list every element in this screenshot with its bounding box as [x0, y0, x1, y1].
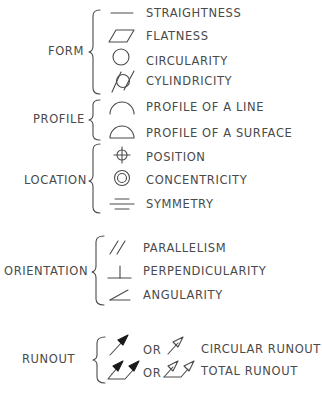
- brace-orientation: [92, 236, 104, 305]
- label-profile-of-a-line: PROFILE OF A LINE: [146, 102, 264, 114]
- category-form: FORM: [48, 46, 84, 58]
- category-location: LOCATION: [24, 175, 87, 187]
- circularity-icon: [113, 49, 129, 65]
- label-symmetry: SYMMETRY: [146, 199, 214, 211]
- profile-line-icon: [110, 102, 134, 114]
- circular-runout-open-icon: [168, 337, 183, 354]
- parallelism-icon: [110, 241, 125, 254]
- total-runout-filled-icon: [108, 361, 139, 379]
- label-concentricity: CONCENTRICITY: [146, 175, 247, 187]
- flatness-icon: [109, 30, 134, 42]
- label-perpendicularity: PERPENDICULARITY: [143, 266, 266, 278]
- perpendicularity-icon: [108, 266, 131, 278]
- label-total-runout: TOTAL RUNOUT: [201, 366, 298, 378]
- total-runout-open-icon: [164, 361, 194, 377]
- angularity-icon: [110, 290, 130, 300]
- runout-or-circular: OR: [143, 345, 161, 357]
- label-circularity: CIRCULARITY: [146, 56, 228, 68]
- label-profile-of-a-surface: PROFILE OF A SURFACE: [146, 128, 292, 140]
- brace-runout: [93, 337, 105, 383]
- label-cylindricity: CYLINDRICITY: [146, 76, 232, 88]
- brace-form: [89, 10, 100, 94]
- category-profile: PROFILE: [33, 114, 85, 126]
- concentricity-icon: [115, 171, 130, 186]
- cylindricity-icon: [112, 71, 134, 92]
- brace-location: [89, 144, 100, 213]
- label-parallelism: PARALLELISM: [143, 243, 226, 255]
- position-icon: [114, 147, 130, 163]
- symmetry-icon: [110, 199, 134, 209]
- category-orientation: ORIENTATION: [4, 266, 88, 278]
- profile-surface-icon: [110, 126, 134, 138]
- label-circular-runout: CIRCULAR RUNOUT: [201, 344, 321, 356]
- circular-runout-filled-icon: [110, 335, 128, 355]
- label-flatness: FLATNESS: [146, 31, 209, 43]
- brace-profile: [89, 100, 100, 140]
- runout-or-total: OR: [143, 368, 161, 380]
- category-runout: RUNOUT: [22, 354, 75, 366]
- label-straightness: STRAIGHTNESS: [146, 8, 241, 20]
- label-position: POSITION: [146, 152, 206, 164]
- label-angularity: ANGULARITY: [143, 290, 223, 302]
